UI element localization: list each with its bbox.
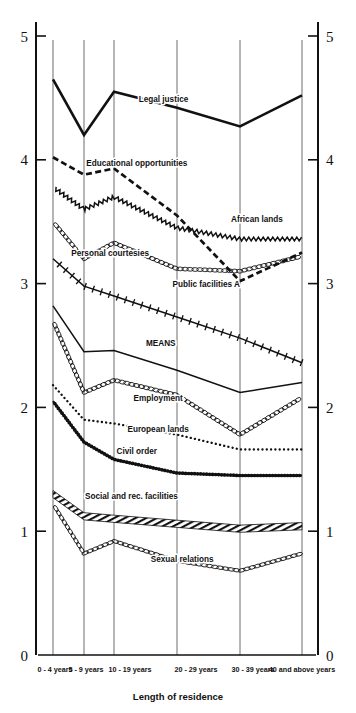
y-label-left-0: 0	[21, 648, 29, 664]
x-tick-label-1: 5 - 9 years	[68, 665, 103, 674]
series-label-8: Civil order	[117, 447, 158, 456]
line-chart-svg: 001122334455 Legal justiceLegal justiceE…	[0, 0, 356, 713]
series-link	[53, 222, 60, 229]
y-label-left-2: 2	[21, 400, 29, 416]
series-label-6: Employment	[134, 394, 183, 403]
series-label-9: Social and rec. facilities	[85, 492, 178, 501]
series-link	[56, 226, 63, 233]
y-label-right-4: 4	[326, 152, 334, 168]
series-label-1: Educational opportunities	[86, 159, 187, 168]
y-label-right-0: 0	[326, 648, 334, 664]
x-axis-title: Length of residence	[133, 691, 223, 702]
y-label-right-1: 1	[326, 524, 334, 540]
chart-container: 001122334455 Legal justiceLegal justiceE…	[0, 0, 356, 713]
x-tick-label-3: 20 - 29 years	[174, 665, 217, 674]
y-label-right-2: 2	[326, 400, 334, 416]
x-tick-label-2: 10 - 19 years	[108, 665, 151, 674]
series-link	[62, 233, 69, 240]
series-label-10: Sexual relations	[151, 555, 214, 564]
y-label-left-1: 1	[21, 524, 29, 540]
series-label-0: Legal justice	[139, 95, 189, 104]
x-tick-label-5: 40 and above years	[269, 665, 335, 674]
y-label-left-5: 5	[21, 29, 29, 45]
series-label-4: Public facilities A	[172, 280, 240, 289]
y-label-left-4: 4	[21, 152, 29, 168]
series-link	[69, 241, 76, 248]
series-label-7: European lands	[127, 425, 189, 434]
x-tick-labels: 0 - 4 years5 - 9 years10 - 19 years20 - …	[37, 665, 335, 674]
y-label-left-3: 3	[21, 276, 29, 292]
series-link	[294, 397, 301, 404]
x-tick-label-0: 0 - 4 years	[37, 665, 72, 674]
y-label-right-5: 5	[326, 29, 334, 45]
series-bead	[298, 474, 302, 478]
series-label-5: MEANS	[146, 339, 176, 348]
series-public-facilities-a	[53, 259, 303, 366]
series-label-2: African lands	[231, 215, 283, 224]
series-link	[65, 237, 72, 244]
y-label-right-3: 3	[326, 276, 334, 292]
series-link	[59, 229, 66, 236]
series-label-3: Personal courtesies	[71, 249, 149, 258]
